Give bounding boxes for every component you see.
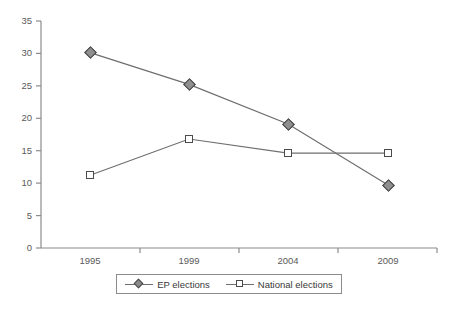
y-tick-label-5: 5 [10, 210, 32, 221]
data-point-national-1995 [86, 171, 94, 179]
chart-legend: EP elections National elections [116, 274, 342, 294]
y-tick-label-30: 30 [10, 47, 32, 58]
x-tick-label-2009: 2009 [358, 255, 418, 266]
y-tick-label-0: 0 [10, 242, 32, 253]
legend-entry-national-elections: National elections [226, 279, 333, 290]
chart-plot-area [0, 0, 455, 315]
x-tick-label-2004: 2004 [258, 255, 318, 266]
legend-entry-ep-elections: EP elections [125, 279, 210, 290]
y-tick-label-25: 25 [10, 80, 32, 91]
y-tick-label-35: 35 [10, 15, 32, 26]
series-line-ep-elections [90, 53, 388, 185]
data-point-national-1999 [185, 135, 193, 143]
line-chart: 0 5 10 15 20 25 30 35 1995 1999 2004 200… [0, 0, 455, 315]
legend-label-national-elections: National elections [258, 279, 333, 290]
diamond-marker-icon [125, 279, 153, 289]
data-point-national-2004 [284, 149, 292, 157]
y-axis-ticks [36, 21, 41, 248]
x-tick-label-1995: 1995 [60, 255, 120, 266]
data-point-national-2009 [384, 149, 392, 157]
x-axis-ticks [140, 248, 437, 253]
y-tick-label-15: 15 [10, 145, 32, 156]
y-tick-label-10: 10 [10, 177, 32, 188]
x-tick-label-1999: 1999 [159, 255, 219, 266]
legend-label-ep-elections: EP elections [157, 279, 210, 290]
square-marker-icon [226, 279, 254, 289]
y-tick-label-20: 20 [10, 112, 32, 123]
